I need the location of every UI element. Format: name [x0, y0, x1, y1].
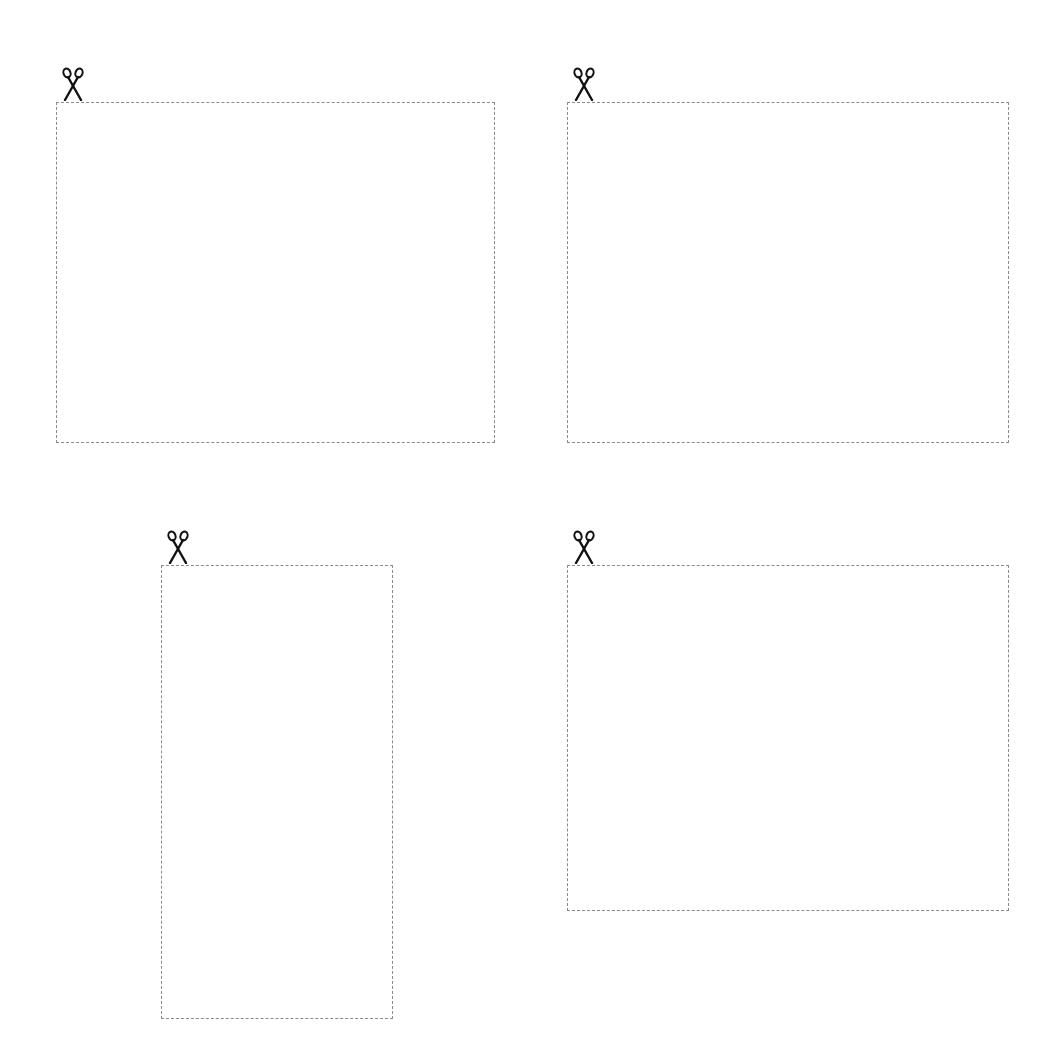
cutout-content	[568, 566, 1008, 910]
scissors-icon	[61, 67, 85, 101]
cutout-box-1	[56, 102, 495, 443]
cutout-box-2	[567, 102, 1009, 443]
cutout-content	[57, 103, 494, 442]
cutout-content	[162, 566, 392, 1018]
scissors-icon	[572, 530, 596, 564]
cutout-box-4	[567, 565, 1009, 911]
cutout-content	[568, 103, 1008, 442]
scissors-icon	[572, 67, 596, 101]
cutout-box-3	[161, 565, 393, 1019]
scissors-icon	[166, 530, 190, 564]
